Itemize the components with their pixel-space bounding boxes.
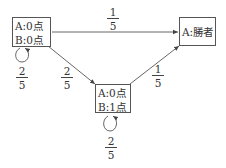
prob-mid-loop: 2 5	[104, 136, 118, 160]
fraction-bar	[16, 77, 28, 78]
node-winner-label: A:勝者	[182, 25, 213, 39]
node-winner: A:勝者	[179, 17, 216, 46]
node-mid-line-b: B:1点	[98, 100, 128, 114]
fraction-bar	[61, 77, 73, 78]
prob-start-to-mid: 2 5	[60, 66, 74, 90]
fraction-bar	[107, 18, 119, 19]
self-loop-start	[16, 48, 29, 62]
node-start-line-a: A:0点	[15, 19, 48, 33]
node-start: A:0点 B:0点	[12, 17, 51, 47]
prob-mid-to-winner: 1 5	[151, 64, 165, 88]
node-start-line-b: B:0点	[15, 33, 48, 47]
prob-start-to-winner: 1 5	[106, 7, 120, 31]
prob-start-loop: 2 5	[15, 66, 29, 90]
self-loop-mid	[104, 116, 117, 131]
node-mid: A:0点 B:1点	[95, 84, 131, 113]
node-mid-line-a: A:0点	[98, 86, 128, 100]
fraction-bar	[152, 75, 164, 76]
probability-diagram: A:0点 B:0点 A:勝者 A:0点 B:1点 1 5 2 5 2 5 1 5…	[0, 0, 226, 168]
fraction-bar	[105, 147, 117, 148]
